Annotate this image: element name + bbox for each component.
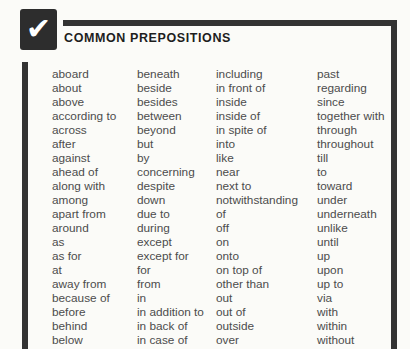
preposition-item: on (216, 235, 317, 249)
preposition-item: inside of (216, 109, 317, 123)
preposition-item: ahead of (52, 165, 137, 179)
preposition-item: due to (137, 207, 216, 221)
preposition-item: until (317, 235, 403, 249)
prepositions-columns: aboardaboutaboveaccording toacrossaftera… (52, 67, 403, 347)
preposition-item: from (137, 277, 216, 291)
preposition-item: except (137, 235, 216, 249)
preposition-item: next to (216, 179, 317, 193)
preposition-item: toward (317, 179, 403, 193)
preposition-item: into (216, 137, 317, 151)
preposition-column-3: includingin front ofinsideinside ofin sp… (216, 67, 317, 347)
preposition-item: before (52, 305, 137, 319)
preposition-item: across (52, 123, 137, 137)
preposition-item: on top of (216, 263, 317, 277)
preposition-item: in spite of (216, 123, 317, 137)
checkmark-badge: ✔ (20, 9, 57, 50)
preposition-item: as (52, 235, 137, 249)
preposition-item: despite (137, 179, 216, 193)
preposition-item: since (317, 95, 403, 109)
preposition-item: in addition to (137, 305, 216, 319)
preposition-item: according to (52, 109, 137, 123)
preposition-item: via (317, 291, 403, 305)
preposition-item: within (317, 319, 403, 333)
preposition-item: in (137, 291, 216, 305)
preposition-item: of (216, 207, 317, 221)
checkmark-icon: ✔ (26, 14, 51, 44)
preposition-item: above (52, 95, 137, 109)
preposition-item: in back of (137, 319, 216, 333)
preposition-item: together with (317, 109, 403, 123)
preposition-item: notwithstanding (216, 193, 317, 207)
preposition-item: up to (317, 277, 403, 291)
preposition-item: among (52, 193, 137, 207)
preposition-item: including (216, 67, 317, 81)
preposition-item: unlike (317, 221, 403, 235)
preposition-item: between (137, 109, 216, 123)
preposition-item: underneath (317, 207, 403, 221)
preposition-item: to (317, 165, 403, 179)
preposition-item: past (317, 67, 403, 81)
preposition-item: till (317, 151, 403, 165)
preposition-item: upon (317, 263, 403, 277)
preposition-item: over (216, 333, 317, 347)
preposition-item: off (216, 221, 317, 235)
preposition-column-4: pastregardingsincetogether withthroughth… (317, 67, 403, 347)
preposition-item: around (52, 221, 137, 235)
preposition-column-1: aboardaboutaboveaccording toacrossaftera… (52, 67, 137, 347)
frame-top-bar (63, 20, 397, 26)
preposition-item: at (52, 263, 137, 277)
preposition-item: along with (52, 179, 137, 193)
preposition-item: inside (216, 95, 317, 109)
preposition-item: during (137, 221, 216, 235)
preposition-item: other than (216, 277, 317, 291)
preposition-column-2: beneathbesidebesidesbetweenbeyondbutbyco… (137, 67, 216, 347)
preposition-item: through (317, 123, 403, 137)
preposition-item: because of (52, 291, 137, 305)
preposition-item: down (137, 193, 216, 207)
frame-left-bar (22, 62, 28, 349)
preposition-item: after (52, 137, 137, 151)
preposition-item: in front of (216, 81, 317, 95)
preposition-item: beneath (137, 67, 216, 81)
preposition-item: outside (216, 319, 317, 333)
preposition-item: for (137, 263, 216, 277)
preposition-item: like (216, 151, 317, 165)
preposition-item: beside (137, 81, 216, 95)
preposition-item: against (52, 151, 137, 165)
preposition-item: regarding (317, 81, 403, 95)
preposition-item: near (216, 165, 317, 179)
preposition-item: but (137, 137, 216, 151)
preposition-item: concerning (137, 165, 216, 179)
preposition-item: about (52, 81, 137, 95)
preposition-item: apart from (52, 207, 137, 221)
preposition-item: with (317, 305, 403, 319)
preposition-item: out (216, 291, 317, 305)
preposition-item: aboard (52, 67, 137, 81)
preposition-item: behind (52, 319, 137, 333)
section-title: COMMON PREPOSITIONS (64, 31, 231, 45)
preposition-item: up (317, 249, 403, 263)
preposition-item: below (52, 333, 137, 347)
preposition-item: onto (216, 249, 317, 263)
preposition-item: without (317, 333, 403, 347)
textbook-page: ✔ COMMON PREPOSITIONS aboardaboutaboveac… (0, 0, 410, 349)
preposition-item: under (317, 193, 403, 207)
preposition-item: besides (137, 95, 216, 109)
preposition-item: except for (137, 249, 216, 263)
preposition-item: out of (216, 305, 317, 319)
preposition-item: by (137, 151, 216, 165)
preposition-item: in case of (137, 333, 216, 347)
preposition-item: away from (52, 277, 137, 291)
preposition-item: beyond (137, 123, 216, 137)
preposition-item: as for (52, 249, 137, 263)
preposition-item: throughout (317, 137, 403, 151)
